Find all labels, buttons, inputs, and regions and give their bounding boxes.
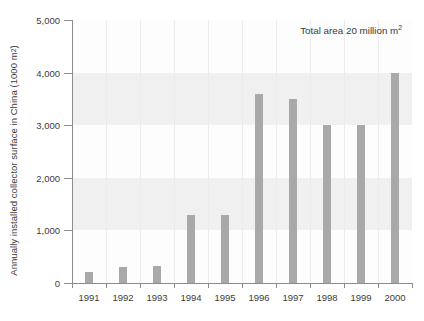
bar [187,215,195,283]
y-axis-tick [64,178,72,179]
bar [153,266,161,283]
chart-annotation-text: Total area 20 million m [300,25,398,36]
y-axis-tick-label: 2,000 [4,172,60,183]
category-gridline [208,20,209,283]
category-gridline [378,20,379,283]
chart-annotation: Total area 20 million m2 [300,24,402,36]
category-gridline [310,20,311,283]
category-gridline [242,20,243,283]
bar [323,125,331,283]
category-gridline [344,20,345,283]
bar [119,267,127,283]
category-gridline [140,20,141,283]
y-axis-tick [64,20,72,21]
y-axis-tick-label: 1,000 [4,225,60,236]
chart-figure: Annually installed collector surface in … [0,0,424,321]
bar [391,73,399,283]
y-axis-tick-label: 0 [4,278,60,289]
plot-area [72,20,412,283]
y-axis-tick [64,73,72,74]
x-axis-tick [106,283,107,288]
y-axis-title-tail: ) [8,45,19,48]
y-axis-tick-label: 3,000 [4,120,60,131]
y-axis-title-text: Annually installed collector surface in … [8,52,19,275]
y-axis-line [72,20,73,283]
y-axis-tick-label: 4,000 [4,67,60,78]
bar [255,94,263,283]
category-gridline [174,20,175,283]
x-axis-tick [72,283,73,288]
y-axis-title: Annually installed collector surface in … [0,0,26,321]
x-axis-tick [276,283,277,288]
y-axis-tick-label: 5,000 [4,15,60,26]
category-gridline [276,20,277,283]
bar [289,99,297,283]
x-axis-tick [378,283,379,288]
x-axis-tick [412,283,413,288]
bar [221,215,229,283]
x-axis-tick [310,283,311,288]
x-axis-tick [140,283,141,288]
bar [85,272,93,283]
x-axis-tick [242,283,243,288]
y-axis-tick [64,283,72,284]
x-axis-tick-label: 2000 [375,292,415,303]
y-axis-tick [64,230,72,231]
y-axis-title-superscript: 2 [10,49,17,53]
x-axis-tick [174,283,175,288]
chart-annotation-superscript: 2 [398,24,402,31]
grid-band [72,73,412,126]
category-gridline [106,20,107,283]
bar [357,125,365,283]
x-axis-tick [344,283,345,288]
y-axis-tick [64,125,72,126]
x-axis-tick [208,283,209,288]
